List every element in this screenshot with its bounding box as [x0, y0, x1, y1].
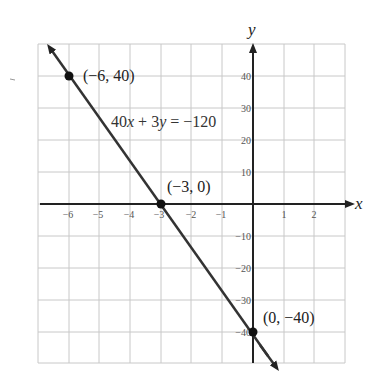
y-tick: −30 — [235, 295, 251, 306]
x-axis-label: x — [354, 194, 363, 213]
x-tick: −4 — [124, 209, 135, 220]
margin-mark — [10, 79, 15, 80]
y-tick: 10 — [241, 167, 251, 178]
x-tick: 2 — [312, 209, 317, 220]
y-tick: 40 — [241, 71, 251, 82]
point-c — [249, 328, 258, 337]
x-tick: −6 — [63, 209, 74, 220]
y-axis-label: y — [246, 20, 256, 39]
y-tick: 20 — [241, 135, 251, 146]
x-tick: −1 — [216, 209, 227, 220]
x-tick: −3 — [154, 209, 165, 220]
y-tick: −20 — [235, 263, 251, 274]
equation-label: 40x + 3y = −120 — [111, 113, 216, 131]
y-tick: 30 — [241, 103, 251, 114]
eq-part: + 3 — [134, 113, 159, 130]
graph: x y −6 −5 −4 −3 −2 −1 1 2 40 30 20 10 −1… — [0, 0, 382, 375]
x-tick: −2 — [186, 209, 197, 220]
x-tick-labels: −6 −5 −4 −3 −2 −1 1 2 — [63, 209, 317, 220]
point-b — [157, 200, 166, 209]
point-c-label: (0, −40) — [263, 309, 315, 327]
eq-part: = −120 — [166, 113, 216, 130]
point-b-label: (−3, 0) — [167, 178, 211, 196]
point-a-label: (−6, 40) — [83, 67, 135, 85]
x-tick: 1 — [282, 209, 287, 220]
y-tick: −10 — [235, 231, 251, 242]
eq-part: 40 — [111, 113, 127, 130]
x-tick: −5 — [93, 209, 104, 220]
eq-var-x: x — [126, 113, 134, 130]
point-a — [65, 72, 74, 81]
equation-line-arrow-end — [260, 345, 276, 367]
